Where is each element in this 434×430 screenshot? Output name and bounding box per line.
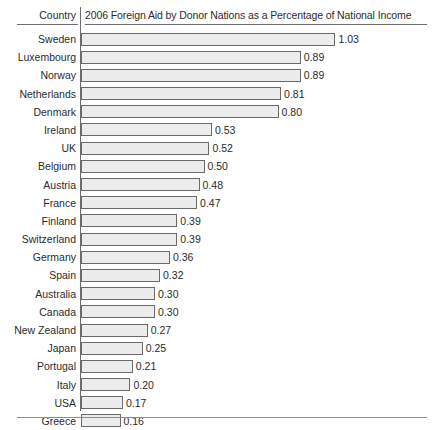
bar-rect	[81, 51, 301, 64]
bar-value-label: 0.50	[208, 157, 228, 175]
bar-row-label: Greece	[0, 412, 76, 430]
chart-header: Country 2006 Foreign Aid by Donor Nation…	[0, 6, 434, 25]
bar-row-label: Belgium	[0, 157, 76, 175]
bar-rect	[81, 396, 123, 409]
bar-rect	[81, 123, 212, 136]
bar-row-label: Sweden	[0, 30, 76, 48]
bar-row: Greece0.16	[0, 412, 434, 430]
bar-row: Austria0.48	[0, 176, 434, 194]
bar-row: Spain0.32	[0, 266, 434, 284]
bar-rect	[81, 287, 155, 300]
bar-value-label: 1.03	[338, 30, 358, 48]
header-rule-right	[85, 24, 427, 25]
bar-row: Switzerland0.39	[0, 230, 434, 248]
bar-row: France0.47	[0, 194, 434, 212]
bar-rect	[81, 324, 148, 337]
bar-value-label: 0.16	[124, 412, 144, 430]
chart-title: 2006 Foreign Aid by Donor Nations as a P…	[85, 6, 411, 25]
bar-rect	[81, 87, 281, 100]
bar-row: Norway0.89	[0, 66, 434, 84]
bar-rect	[81, 69, 301, 82]
bar-row: New Zealand0.27	[0, 321, 434, 339]
bar-row-label: Netherlands	[0, 85, 76, 103]
bar-row: Italy0.20	[0, 376, 434, 394]
bar-row-label: Ireland	[0, 121, 76, 139]
bar-value-label: 0.25	[146, 339, 166, 357]
bar-value-label: 0.30	[158, 285, 178, 303]
bar-row: Belgium0.50	[0, 157, 434, 175]
bar-row-list: Sweden1.03Luxembourg0.89Norway0.89Nether…	[0, 30, 434, 430]
bar-value-label: 0.89	[304, 66, 324, 84]
bar-row-label: Germany	[0, 248, 76, 266]
bar-row: Portugal0.21	[0, 357, 434, 375]
bar-row: Ireland0.53	[0, 121, 434, 139]
bar-row-label: UK	[0, 139, 76, 157]
bar-value-label: 0.81	[284, 85, 304, 103]
bar-rect	[81, 342, 143, 355]
bar-value-label: 0.48	[203, 176, 223, 194]
bar-row: Germany0.36	[0, 248, 434, 266]
bar-rect	[81, 305, 155, 318]
bar-row-label: USA	[0, 394, 76, 412]
bar-row-label: Canada	[0, 303, 76, 321]
bar-rect	[81, 196, 197, 209]
bar-value-label: 0.20	[133, 376, 153, 394]
bar-row-label: Norway	[0, 66, 76, 84]
bar-rect	[81, 160, 205, 173]
bar-row: Japan0.25	[0, 339, 434, 357]
bar-row: Finland0.39	[0, 212, 434, 230]
bar-row: UK0.52	[0, 139, 434, 157]
bar-value-label: 0.27	[151, 321, 171, 339]
bar-row-label: Spain	[0, 266, 76, 284]
bar-value-label: 0.53	[215, 121, 235, 139]
bar-rect	[81, 269, 160, 282]
bar-row-label: Switzerland	[0, 230, 76, 248]
bar-row: Canada0.30	[0, 303, 434, 321]
bar-row: Sweden1.03	[0, 30, 434, 48]
bar-rect	[81, 360, 133, 373]
bar-rect	[81, 378, 130, 391]
bar-row-label: Australia	[0, 285, 76, 303]
bar-rect	[81, 105, 279, 118]
bar-rect	[81, 178, 200, 191]
bar-value-label: 0.80	[282, 103, 302, 121]
bar-value-label: 0.89	[304, 48, 324, 66]
bar-row: Australia0.30	[0, 285, 434, 303]
column-header-country: Country	[0, 6, 76, 25]
bar-rect	[81, 233, 177, 246]
bar-row: Denmark0.80	[0, 103, 434, 121]
chart-bottom-rule	[17, 417, 427, 418]
bar-row-label: Portugal	[0, 357, 76, 375]
bar-value-label: 0.17	[126, 394, 146, 412]
bar-value-label: 0.47	[200, 194, 220, 212]
bar-value-label: 0.39	[180, 212, 200, 230]
bar-value-label: 0.30	[158, 303, 178, 321]
bar-value-label: 0.21	[136, 357, 156, 375]
bar-value-label: 0.52	[212, 139, 232, 157]
bar-row-label: Japan	[0, 339, 76, 357]
bar-rect	[81, 251, 170, 264]
bar-value-label: 0.36	[173, 248, 193, 266]
bar-row: Netherlands0.81	[0, 85, 434, 103]
bar-row-label: New Zealand	[0, 321, 76, 339]
header-rule-left	[17, 24, 78, 25]
bar-row: USA0.17	[0, 394, 434, 412]
bar-row-label: Luxembourg	[0, 48, 76, 66]
bar-row-label: Denmark	[0, 103, 76, 121]
bar-value-label: 0.32	[163, 266, 183, 284]
bar-row-label: Finland	[0, 212, 76, 230]
bar-rect	[81, 142, 209, 155]
bar-rect	[81, 33, 335, 46]
bar-row-label: France	[0, 194, 76, 212]
bar-row: Luxembourg0.89	[0, 48, 434, 66]
bar-value-label: 0.39	[180, 230, 200, 248]
bar-rect	[81, 214, 177, 227]
bar-row-label: Italy	[0, 376, 76, 394]
bar-row-label: Austria	[0, 176, 76, 194]
